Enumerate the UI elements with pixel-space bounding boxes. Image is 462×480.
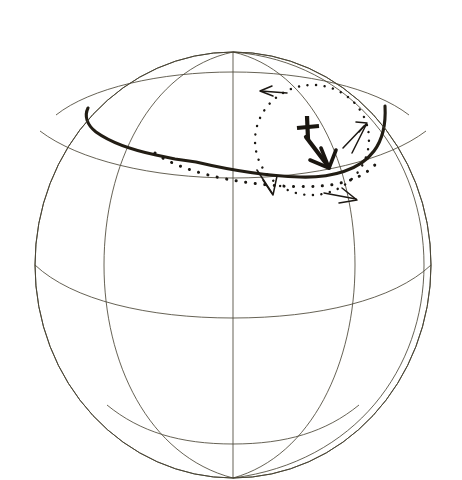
cross-marker [297, 116, 319, 139]
arrow-up-right [343, 122, 367, 153]
figure-root [0, 0, 462, 480]
dotted-rotation-circle [248, 78, 376, 203]
meridian-group [104, 52, 424, 478]
arrow-right [324, 188, 357, 203]
bold-velocity-arrow [306, 137, 336, 168]
meridian-right-inner [233, 52, 355, 478]
meridian-left [104, 52, 233, 478]
arrow-left [260, 86, 287, 96]
meridian-right-outer [233, 52, 424, 478]
latitude-north-high [56, 72, 409, 115]
sphere-diagram [0, 0, 462, 480]
